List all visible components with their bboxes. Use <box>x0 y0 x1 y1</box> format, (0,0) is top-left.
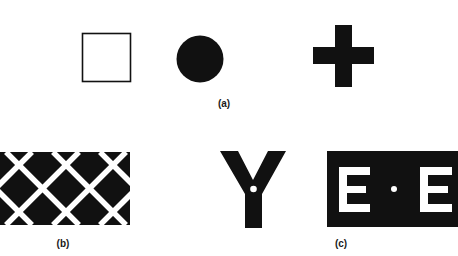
letter-y-shape <box>220 151 286 228</box>
center-dot <box>391 186 397 192</box>
lattice-line-up <box>147 152 220 225</box>
panel-a: (a) <box>83 25 375 109</box>
panel-c-label: (c) <box>335 238 347 249</box>
filled-cross <box>313 25 374 87</box>
figure: (a) (b) <box>0 0 458 256</box>
lattice-line-down <box>147 152 220 225</box>
panel-a-label: (a) <box>218 98 230 109</box>
filled-circle <box>177 36 224 83</box>
panel-b-label: (b) <box>57 238 70 249</box>
panel-b: (b) <box>0 152 361 249</box>
y-junction-dot <box>250 186 257 193</box>
letter-e-left <box>339 167 370 212</box>
e-dot-e-box <box>327 151 458 227</box>
outlined-square <box>83 34 131 82</box>
letter-e-right <box>420 167 452 212</box>
panel-c: (c) <box>220 151 458 249</box>
